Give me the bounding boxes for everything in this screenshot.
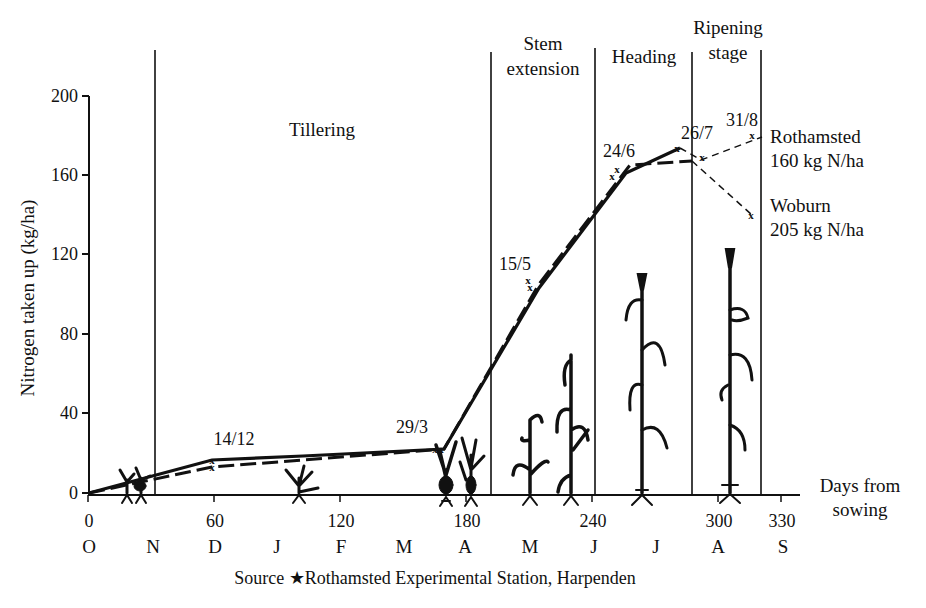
- x-tick-labels: 0 60 120 180 240 300 330: [85, 511, 796, 531]
- marker-x-icon: x: [438, 443, 444, 455]
- legend-rothamsted: Rothamsted: [770, 126, 861, 147]
- marker-x-icon: x: [748, 209, 754, 221]
- date-label: 29/3: [396, 417, 428, 437]
- legend-woburn-rate: 205 kg N/ha: [770, 219, 865, 240]
- xtick-label: 120: [328, 511, 355, 531]
- woburn-line: [89, 161, 692, 493]
- plant-illustrations: [120, 250, 752, 506]
- date-label: 26/7: [681, 123, 713, 143]
- x-axis-title-line1: Days from: [820, 475, 901, 496]
- woburn-projection: [692, 161, 752, 215]
- xtick-label: 60: [206, 511, 224, 531]
- ytick-label: 160: [51, 165, 78, 185]
- ytick-label: 200: [51, 86, 78, 106]
- date-label: 15/5: [499, 254, 531, 274]
- date-label: 14/12: [213, 429, 254, 449]
- xtick-label: 0: [85, 511, 94, 531]
- month-label: F: [336, 536, 347, 557]
- month-label: N: [146, 536, 160, 557]
- month-label: M: [396, 536, 413, 557]
- date-annotations: 14/12 29/3 15/5 24/6 26/7 31/8: [213, 110, 758, 449]
- stage-label-ripening: stage: [708, 42, 747, 63]
- month-label: M: [522, 536, 539, 557]
- y-tick-labels: 200 160 120 80 40 0: [51, 86, 78, 503]
- tillering-plant-icon: [286, 466, 318, 503]
- marker-x-icon: x: [749, 129, 755, 141]
- legend-woburn: Woburn: [770, 195, 831, 216]
- month-label: A: [711, 536, 725, 557]
- marker-x-icon: x: [614, 163, 620, 175]
- xtick-label: 180: [454, 511, 481, 531]
- month-label: D: [208, 536, 222, 557]
- ripening-plant-icon: [720, 250, 752, 503]
- stage-label-heading: Heading: [612, 46, 677, 67]
- ytick-label: 40: [60, 403, 78, 423]
- ytick-label: 120: [51, 244, 78, 264]
- stage-label-tillering: Tillering: [289, 119, 355, 140]
- month-label: O: [82, 536, 96, 557]
- marker-x-icon: x: [674, 142, 680, 154]
- data-markers: x x x x x x x x x x x x: [209, 129, 755, 473]
- ytick-label: 0: [69, 483, 78, 503]
- month-label: J: [273, 536, 280, 557]
- stage-label-stem-extension: extension: [507, 58, 580, 79]
- nitrogen-uptake-chart: 200 160 120 80 40 0 Nitrogen taken up (k…: [0, 0, 926, 608]
- date-label: 31/8: [726, 110, 758, 130]
- series-rothamsted: [89, 137, 762, 493]
- stage-label-ripening: Ripening: [693, 17, 763, 38]
- ytick-label: 80: [60, 324, 78, 344]
- xtick-label: 330: [769, 511, 796, 531]
- marker-x-icon: x: [699, 151, 705, 163]
- series-labels: Rothamsted 160 kg N/ha Woburn 205 kg N/h…: [770, 126, 865, 240]
- month-label: A: [458, 536, 472, 557]
- stage-label-stem-extension: Stem: [523, 33, 562, 54]
- xtick-label: 240: [580, 511, 607, 531]
- month-label: S: [778, 536, 789, 557]
- month-label: J: [590, 536, 597, 557]
- series-woburn: [89, 161, 752, 493]
- y-axis-title: Nitrogen taken up (kg/ha): [17, 200, 39, 397]
- heading-plant-icon: [626, 275, 667, 505]
- xtick-label: 300: [706, 511, 733, 531]
- x-axis-title-line2: sowing: [833, 499, 888, 520]
- rothamsted-line: [89, 148, 680, 493]
- source-caption: Source ★Rothamsted Experimental Station,…: [234, 568, 635, 588]
- month-labels: O N D J F M A M J J A S: [82, 536, 788, 557]
- marker-x-icon: x: [527, 281, 533, 293]
- stem-extension-plant-icon: [513, 355, 588, 505]
- legend-rothamsted-rate: 160 kg N/ha: [770, 150, 865, 171]
- date-label: 24/6: [603, 141, 635, 161]
- marker-x-icon: x: [209, 461, 215, 473]
- month-label: J: [652, 536, 659, 557]
